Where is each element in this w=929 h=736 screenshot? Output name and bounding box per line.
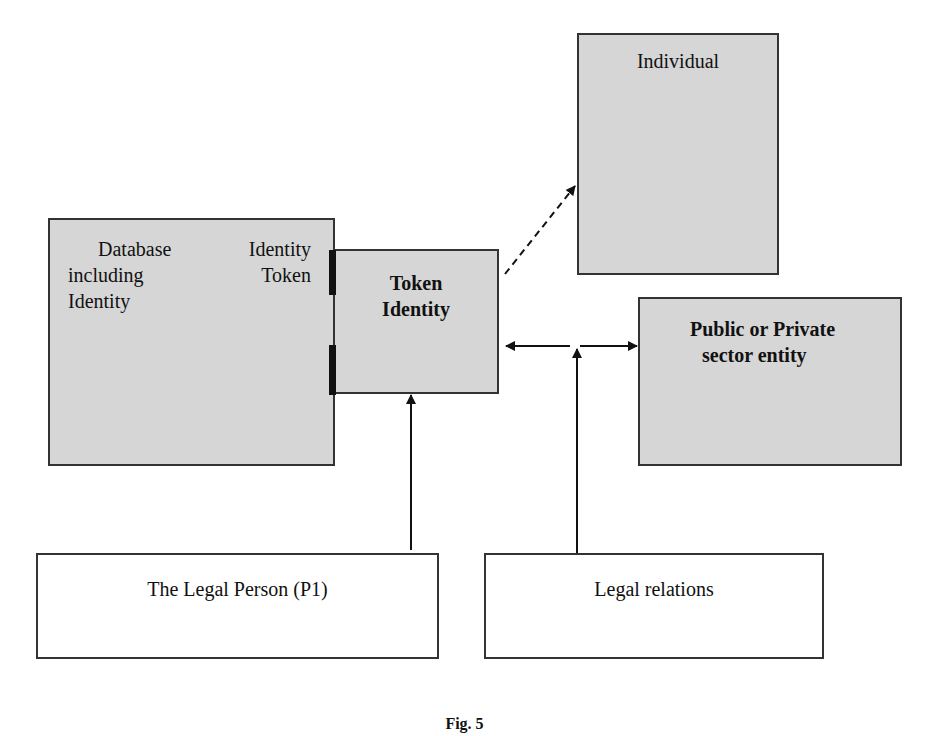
dashed-arrow-token-to-individual — [505, 186, 575, 274]
figure-caption: Fig. 5 — [0, 712, 929, 736]
